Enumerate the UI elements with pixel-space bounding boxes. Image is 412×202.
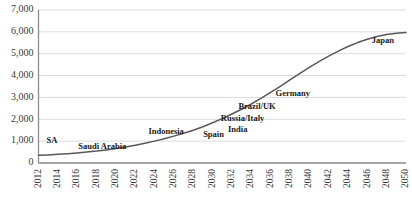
axis-lines [39,10,407,163]
x-tick-label: 2034 [245,169,255,188]
annotation-label: Saudi Arabia [78,141,127,151]
x-tick-label: 2042 [323,169,333,188]
y-tick-label: 7,000 [11,3,34,14]
x-tick-label: 2024 [149,169,159,188]
annotation-label: Indonesia [148,126,184,136]
x-tick-label: 2036 [265,169,275,188]
y-tick-label: 5,000 [11,47,34,58]
x-tick-label: 2046 [362,169,372,188]
x-tick-label: 2038 [284,169,294,188]
annotation-label: Germany [276,88,311,98]
x-axis-tick-labels: 2012201420162018202020222024202620282030… [33,169,411,188]
series-annotations: SASaudi ArabiaIndonesiaSpainIndiaRussia/… [47,35,395,151]
x-tick-label: 2032 [226,169,236,188]
x-tick-label: 2050 [400,169,410,188]
annotation-label: Brazil/UK [238,101,276,111]
x-tick-label: 2030 [207,169,217,188]
line-chart: 7,0006,0005,0004,0003,0002,0001,0000 201… [0,0,412,202]
annotation-label: India [228,124,248,134]
y-tick-label: 1,000 [11,134,34,145]
y-tick-label: 6,000 [11,25,34,36]
x-tick-label: 2022 [129,169,139,188]
y-tick-label: 2,000 [11,113,34,124]
x-tick-label: 2020 [110,169,120,188]
chart-canvas: 7,0006,0005,0004,0003,0002,0001,0000 201… [0,0,412,202]
x-tick-label: 2028 [187,169,197,188]
gridlines [39,10,407,163]
y-tick-label: 3,000 [11,91,34,102]
x-tick-label: 2016 [71,169,81,188]
x-tick-label: 2026 [168,169,178,188]
annotation-label: Spain [203,129,224,139]
y-axis-tick-labels: 7,0006,0005,0004,0003,0002,0001,0000 [11,3,34,167]
x-tick-label: 2012 [33,169,43,188]
annotation-label: Japan [372,35,394,45]
y-tick-label: 4,000 [11,69,34,80]
annotation-label: SA [47,135,59,145]
y-tick-label: 0 [29,156,34,167]
annotation-label: Russia/Italy [221,113,265,123]
x-tick-label: 2018 [91,169,101,188]
x-tick-label: 2048 [381,169,391,188]
x-tick-label: 2040 [303,169,313,188]
x-tick-label: 2044 [342,169,352,188]
x-tick-label: 2014 [52,169,62,188]
